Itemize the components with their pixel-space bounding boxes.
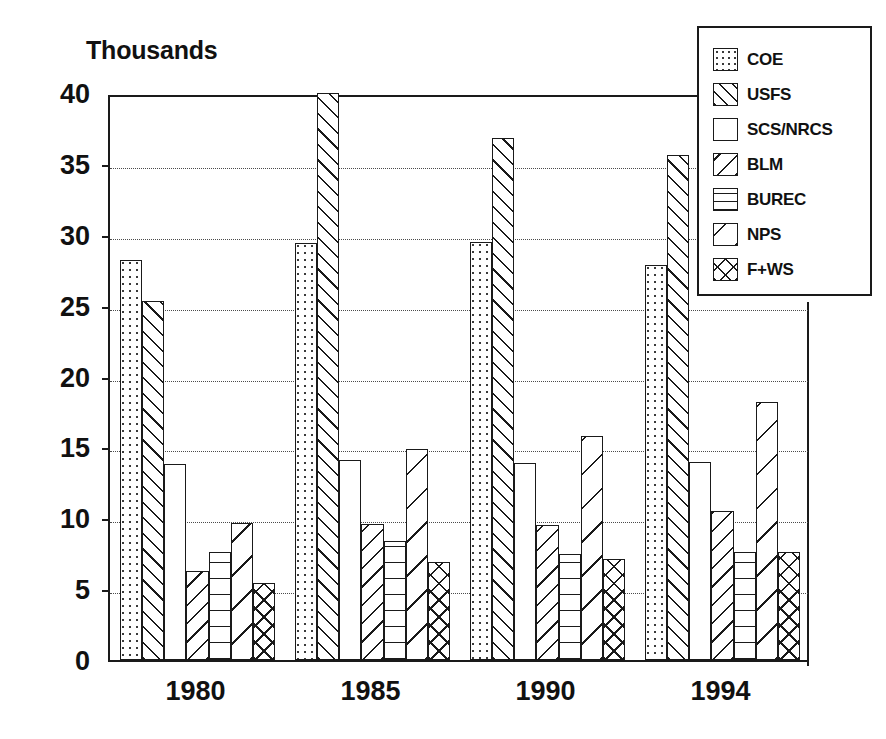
legend-item-blm[interactable]: BLM [713,147,870,182]
y-tick-label: 25 [60,294,90,321]
legend-label: COE [747,50,783,70]
bar-chart: Thousands 0510152025303540 1980198519901… [0,0,886,739]
legend-item-nps[interactable]: NPS [713,217,870,252]
y-tick-label: 20 [60,364,90,391]
bar-blm-1994 [711,511,733,660]
legend-item-f-ws[interactable]: F+WS [713,252,870,287]
bar-blm-1985 [361,524,383,660]
bar-f-ws-1985 [428,562,450,660]
legend-label: BUREC [747,190,806,210]
legend-swatch-diag-back-icon [713,153,738,176]
bar-usfs-1980 [142,301,164,660]
legend-label: NPS [747,225,781,245]
y-tick-label: 40 [60,81,90,108]
x-tick-label-1980: 1980 [165,676,225,707]
legend-swatch-horiz-icon [713,188,738,211]
y-tick-label: 10 [60,506,90,533]
bar-coe-1994 [645,265,667,660]
y-tick-label: 30 [60,223,90,250]
y-tick-label: 15 [60,435,90,462]
bar-scs-nrcs-1994 [689,462,711,660]
legend-label: BLM [747,155,783,175]
legend-item-scs-nrcs[interactable]: SCS/NRCS [713,112,870,147]
bar-nps-1990 [581,436,603,660]
bar-usfs-1985 [317,93,339,660]
bar-nps-1994 [756,402,778,660]
bar-nps-1985 [406,449,428,660]
bar-coe-1990 [470,242,492,660]
y-tick-label: 35 [60,152,90,179]
legend-swatch-diag-fwd-dense-icon [713,83,738,106]
y-tick-label: 0 [75,648,90,675]
legend-label: F+WS [747,260,794,280]
gridline [110,381,808,382]
gridline [110,451,808,452]
legend-item-usfs[interactable]: USFS [713,77,870,112]
plot-right-border [807,302,809,666]
bar-coe-1980 [120,260,142,660]
y-axis: 0510152025303540 [0,95,104,662]
bar-nps-1980 [231,523,253,660]
x-axis: 1980198519901994 [108,664,808,724]
bar-coe-1985 [295,243,317,660]
bar-scs-nrcs-1980 [164,464,186,660]
bar-usfs-1994 [667,155,689,660]
bar-scs-nrcs-1990 [514,463,536,660]
bar-blm-1990 [536,525,558,660]
chart-title: Thousands [86,36,218,65]
chart-legend: COEUSFSSCS/NRCSBLMBURECNPSF+WS [697,26,872,296]
bar-f-ws-1994 [778,552,800,660]
bar-burec-1985 [384,541,406,660]
legend-swatch-dotted-icon [713,48,738,71]
gridline [110,310,808,311]
x-tick-label-1985: 1985 [340,676,400,707]
bar-burec-1990 [559,554,581,660]
bar-f-ws-1980 [253,583,275,660]
x-tick-label-1990: 1990 [515,676,575,707]
legend-swatch-diag-back-sparse-icon [713,223,738,246]
bar-burec-1980 [209,552,231,660]
bar-burec-1994 [734,552,756,660]
bar-scs-nrcs-1985 [339,460,361,660]
bar-usfs-1990 [492,138,514,660]
bar-f-ws-1990 [603,559,625,660]
legend-swatch-empty-icon [713,118,738,141]
x-tick-label-1994: 1994 [690,676,750,707]
legend-item-burec[interactable]: BUREC [713,182,870,217]
legend-item-coe[interactable]: COE [713,42,870,77]
legend-swatch-cross-icon [713,258,738,281]
legend-label: USFS [747,85,791,105]
legend-label: SCS/NRCS [747,120,832,140]
y-tick-label: 5 [75,577,90,604]
bar-blm-1980 [186,571,208,660]
